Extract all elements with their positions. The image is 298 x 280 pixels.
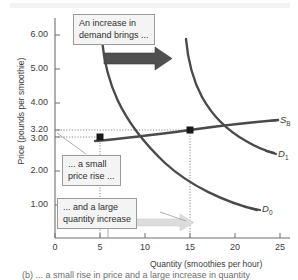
x-tick-label-10: 10: [135, 242, 155, 252]
x-tick-marks: [55, 233, 280, 238]
y-tick-label-600: 6.00: [18, 29, 48, 39]
quantity-increase-callout-line-1: ... and a large: [63, 202, 131, 214]
y-tick-label-500: 5.00: [18, 63, 48, 73]
curve-label-ticks: [250, 120, 278, 210]
equilibrium-initial-marker: [97, 134, 104, 141]
curve-d1: [186, 39, 274, 153]
curve-label-sb-sub: B: [286, 120, 290, 127]
price-rise-callout: ... a small price rise ...: [62, 155, 121, 186]
tick-d1: [266, 151, 276, 154]
y-tick-marks: [55, 35, 60, 205]
demand-shift-callout: An increase in demand brings ...: [73, 14, 155, 45]
price-rise-callout-line-2: price rise ...: [68, 171, 115, 183]
y-tick-label-400: 4.00: [18, 97, 48, 107]
x-tick-label-25: 25: [270, 242, 290, 252]
curve-label-d0-sub: 0: [269, 209, 273, 216]
demand-shift-callout-line-2: demand brings ...: [79, 30, 149, 42]
y-tick-label-100: 1.00: [18, 199, 48, 209]
x-tick-label-5: 5: [90, 242, 110, 252]
curve-label-d1: D1: [278, 148, 289, 161]
curve-label-d1-sub: 1: [285, 154, 289, 161]
curve-label-d0-text: D: [262, 203, 269, 214]
x-tick-label-0: 0: [45, 242, 65, 252]
tick-sb: [270, 120, 278, 121]
demand-shift-arrow: [104, 47, 172, 70]
curve-label-d0: D0: [262, 203, 273, 216]
y-tick-label-300: 3.00: [18, 133, 48, 143]
quantity-increase-callout-line-2: quantity increase: [63, 214, 131, 226]
curve-label-d1-text: D: [278, 148, 285, 159]
leader-price-rise: [57, 133, 86, 154]
x-axis-title: Quantity (smoothies per hour): [150, 259, 262, 269]
demand-shift-callout-line-1: An increase in: [79, 18, 149, 30]
x-tick-label-20: 20: [225, 242, 245, 252]
x-tick-label-15: 15: [180, 242, 200, 252]
equilibrium-new-marker: [187, 127, 194, 134]
y-tick-label-200: 2.00: [18, 165, 48, 175]
figure-caption: (b) ... a small rise in price and a larg…: [22, 270, 250, 280]
quantity-increase-callout: ... and a large quantity increase: [57, 198, 137, 229]
curve-label-sb: SB: [280, 114, 291, 127]
price-rise-callout-line-1: ... a small: [68, 159, 115, 171]
